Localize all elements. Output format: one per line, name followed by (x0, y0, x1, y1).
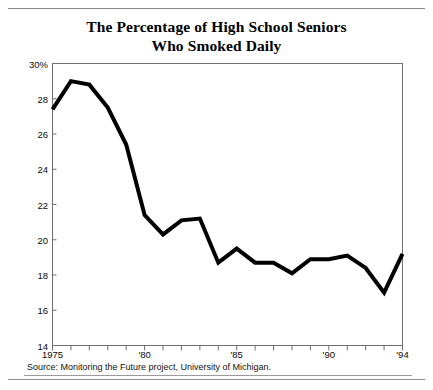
x-axis-tick-label: '94 (396, 349, 408, 360)
x-axis-tick-label: '90 (323, 349, 335, 360)
x-axis-tick-label: '85 (231, 349, 243, 360)
x-tick-marks (53, 346, 403, 351)
bottom-divider (8, 379, 425, 380)
source-divider (24, 375, 412, 376)
plot-area: 1975'80'85'90'94 (0, 0, 433, 390)
chart-figure: The Percentage of High School Seniors Wh… (0, 0, 433, 390)
source-note: Source: Monitoring the Future project, U… (27, 362, 271, 372)
x-axis-tick-label: '80 (138, 349, 150, 360)
line-chart-svg (0, 0, 433, 390)
x-axis-tick-label: 1975 (42, 349, 63, 360)
